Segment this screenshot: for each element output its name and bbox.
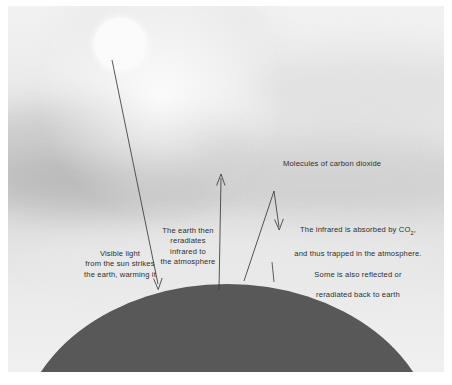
illustration-frame: Visible light from the sun strikes the e… xyxy=(8,6,444,372)
label-absorbed-line-1: The infrared is absorbed by CO xyxy=(300,225,410,234)
label-visible-light: Visible light from the sun strikes the e… xyxy=(74,249,166,280)
co2-pointer-line-left xyxy=(272,262,274,282)
trapped-infrared-zigzag-arrow xyxy=(244,191,279,281)
label-infrared-absorbed: The infrared is absorbed by CO2, and thu… xyxy=(276,215,440,301)
label-absorbed-line-1-end: , xyxy=(414,225,416,234)
label-molecules-of-carbon-dioxide: Molecules of carbon dioxide xyxy=(283,159,433,169)
arrow-overlay xyxy=(8,6,444,372)
label-absorbed-line-4: reradiated back to earth xyxy=(316,290,400,299)
label-absorbed-line-3: Some is also reflected or xyxy=(314,270,401,279)
label-earth-reradiates: The earth then reradiates infrared to th… xyxy=(156,226,220,268)
label-absorbed-line-2: and thus trapped in the atmosphere. xyxy=(294,249,421,258)
greenhouse-effect-diagram: Visible light from the sun strikes the e… xyxy=(0,0,452,385)
